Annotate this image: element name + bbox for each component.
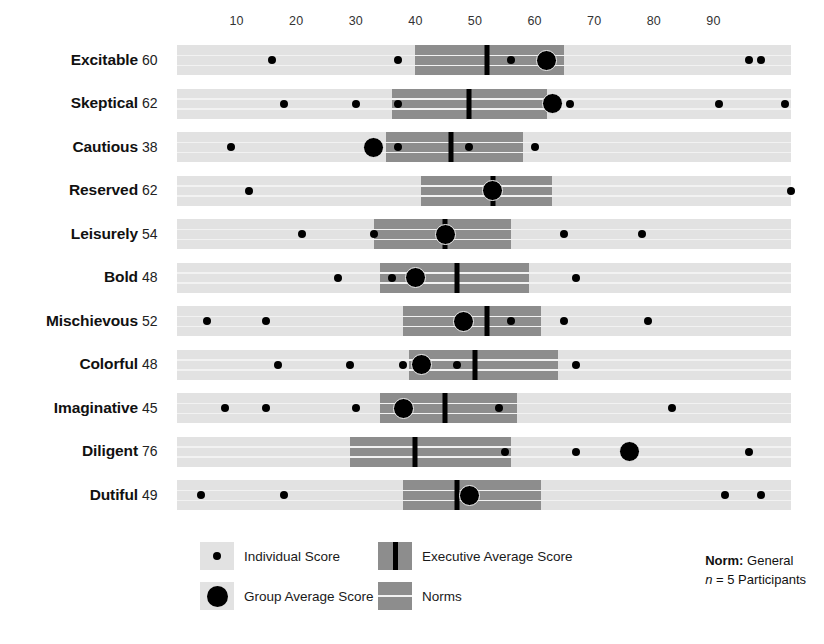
row-track [177,480,791,510]
legend-item-individual-score: Individual Score [200,542,340,570]
chart-row: Cautious38 [0,125,824,169]
individual-score-dot [668,404,676,412]
chart-row: Colorful48 [0,343,824,387]
legend-label: Group Average Score [244,589,374,604]
chart-row: Reserved62 [0,169,824,213]
individual-score-dot [787,187,795,195]
row-label-reserved: Reserved [0,169,138,213]
executive-average-marker [473,350,478,380]
row-label-mischievous: Mischievous [0,299,138,343]
norm-band-line [177,369,791,371]
legend-item-executive-average-score: Executive Average Score [378,542,573,570]
axis-tick-40: 40 [408,14,422,28]
row-label-dutiful: Dutiful [0,473,138,517]
individual-score-dot [274,361,282,369]
individual-score-dot [388,274,396,282]
executive-average-marker [443,393,448,423]
norm-band-line [177,413,791,415]
executive-average-marker [484,306,489,336]
group-average-dot [393,398,414,419]
individual-score-dot [370,230,378,238]
legend-label: Executive Average Score [422,549,573,564]
row-label-bold: Bold [0,256,138,300]
norm-band-line [177,98,791,100]
individual-score-dot [507,56,515,64]
row-score-bold: 48 [142,256,172,300]
legend-swatch-executive-average-score-icon [378,542,412,570]
chart-row: Excitable60 [0,38,824,82]
row-label-imaginative: Imaginative [0,386,138,430]
group-average-dot [405,267,426,288]
axis-tick-20: 20 [289,14,303,28]
chart-row: Bold48 [0,256,824,300]
legend-item-norms: Norms [378,582,462,610]
individual-score-dot [203,317,211,325]
legend-label: Norms [422,589,462,604]
individual-score-dot [465,143,473,151]
participants-n-symbol: n [705,572,712,587]
chart-legend: Individual ScoreGroup Average ScoreExecu… [0,540,824,620]
individual-score-dot [572,448,580,456]
individual-score-dot [346,361,354,369]
norm-label: Norm: [705,553,743,568]
axis-tick-90: 90 [706,14,720,28]
axis-tick-60: 60 [527,14,541,28]
row-score-diligent: 76 [142,430,172,474]
row-score-colorful: 48 [142,343,172,387]
small-dot-icon [213,552,221,560]
individual-score-dot [715,100,723,108]
row-score-mischievous: 52 [142,299,172,343]
individual-score-dot [280,100,288,108]
legend-swatch-individual-score-icon [200,542,234,570]
individual-score-dot [501,448,509,456]
executive-average-marker [484,45,489,75]
row-track [177,350,791,380]
individual-score-dot [531,143,539,151]
row-track [177,132,791,162]
band-line-icon [378,595,412,597]
chart-row: Imaginative45 [0,386,824,430]
norm-band-line [177,456,791,458]
row-score-dutiful: 49 [142,473,172,517]
norm-value: General [747,553,793,568]
chart-rows: Excitable60Skeptical62Cautious38Reserved… [0,38,824,517]
group-average-dot [363,137,384,158]
x-axis: 102030405060708090 [0,14,824,36]
row-label-colorful: Colorful [0,343,138,387]
norm-band [386,132,523,162]
group-average-dot [459,485,480,506]
legend-swatch-group-average-score-icon [200,582,234,610]
norm-band-line [177,490,791,492]
row-score-excitable: 60 [142,38,172,82]
axis-tick-30: 30 [349,14,363,28]
individual-score-dot [352,100,360,108]
axis-tick-70: 70 [587,14,601,28]
row-track [177,176,791,206]
row-label-leisurely: Leisurely [0,212,138,256]
row-track [177,45,791,75]
participants-count: = 5 Participants [716,572,806,587]
individual-score-dot [453,361,461,369]
norm-band-line [177,403,791,405]
chart-row: Skeptical62 [0,82,824,126]
large-dot-icon [207,586,228,607]
individual-score-dot [638,230,646,238]
individual-score-dot [781,100,789,108]
norm-band-line [177,142,791,144]
legend-item-group-average-score: Group Average Score [200,582,374,610]
individual-score-dot [394,143,402,151]
vertical-line-icon [393,542,398,570]
axis-tick-10: 10 [229,14,243,28]
individual-score-dot [394,100,402,108]
norm-band-line [177,359,791,361]
row-track [177,263,791,293]
individual-score-dot [394,56,402,64]
norm-band-line [177,446,791,448]
row-track [177,89,791,119]
norm-band-line [177,500,791,502]
individual-score-dot [221,404,229,412]
norm-note: Norm: General n = 5 Participants [705,552,806,590]
individual-score-dot [495,404,503,412]
row-score-cautious: 38 [142,125,172,169]
row-score-reserved: 62 [142,169,172,213]
